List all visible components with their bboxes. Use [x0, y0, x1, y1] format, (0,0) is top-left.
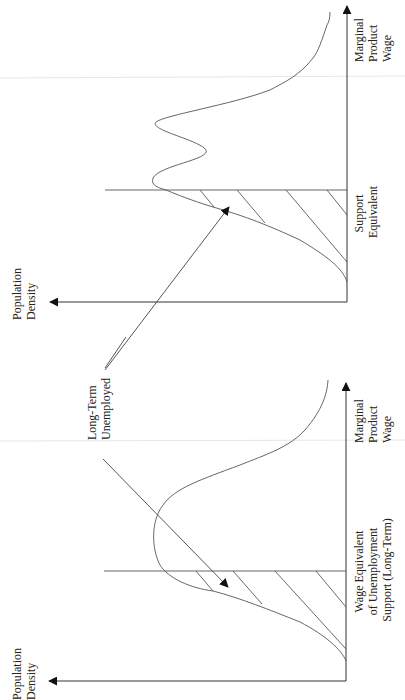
pointer-arrow-top: [105, 207, 229, 370]
long-term-unemployment-diagram: Population Density Marginal Product Wage…: [0, 0, 405, 700]
scan-artifact-line: [0, 440, 405, 441]
unimodal-distribution-curve: [154, 380, 346, 661]
marginal-product-wage-label-bottom: Marginal Product Wage: [352, 396, 394, 443]
pointer-stub-top: [105, 337, 126, 368]
hatched-region-top: [200, 190, 347, 262]
bimodal-distribution-curve: [152, 12, 347, 282]
support-equivalent-label: Support Equivalent: [352, 185, 380, 238]
pointer-arrow-bottom: [103, 459, 228, 587]
bottom-panel: Population Density Marginal Product Wage…: [10, 380, 394, 700]
wage-equivalent-label: Wage Equivalent of Unemployment Support …: [352, 518, 394, 621]
marginal-product-wage-label-top: Marginal Product Wage: [352, 15, 394, 62]
top-panel: Population Density Marginal Product Wage…: [10, 6, 394, 370]
scan-artifact-line: [0, 76, 405, 78]
population-density-label-top: Population Density: [10, 265, 38, 320]
long-term-unemployed-label: Long-Term Unemployed: [85, 378, 113, 440]
population-density-label-bottom: Population Density: [10, 645, 38, 700]
hatched-region-bottom: [196, 571, 346, 649]
